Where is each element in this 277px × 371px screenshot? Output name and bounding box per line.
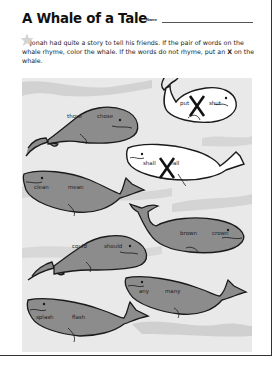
whale-word: crown <box>212 230 229 236</box>
whale-word: clean <box>34 184 49 190</box>
whale-word: splash <box>36 314 54 320</box>
instructions: Jonah had quite a story to tell his frie… <box>22 38 258 66</box>
name-field[interactable] <box>162 22 253 23</box>
whale-word: shut <box>209 100 221 106</box>
whale-word: flash <box>72 314 85 320</box>
whale-word: any <box>139 288 149 294</box>
whale-word: many <box>165 288 180 294</box>
whale-word: brown <box>180 230 197 236</box>
whale-word: chose <box>97 113 113 119</box>
whale-word: shall <box>143 160 156 166</box>
whale-put-shut[interactable] <box>132 78 242 134</box>
whale-word: could <box>72 243 87 249</box>
whale-word: mean <box>68 184 84 190</box>
whale-splash-flash[interactable] <box>24 296 154 346</box>
name-label: Name <box>146 17 157 22</box>
instructions-text: Jonah had quite a story to tell his frie… <box>22 39 244 55</box>
whale-scene: put shut those chose shall fall clean me… <box>22 78 252 352</box>
whale-word: those <box>67 113 82 119</box>
whale-word: put <box>180 100 189 106</box>
whale-word: should <box>104 243 122 249</box>
worksheet-title: A Whale of a Tale <box>22 10 147 26</box>
whale-word: fall <box>171 160 179 166</box>
